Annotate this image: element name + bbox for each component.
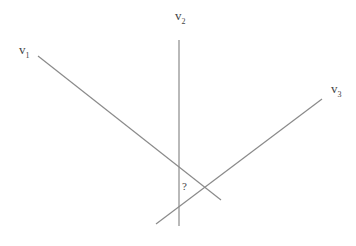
label-v2: v2 xyxy=(175,8,186,26)
line-v1 xyxy=(38,56,221,200)
line-v3 xyxy=(156,99,322,224)
label-unknown-angle: ? xyxy=(182,180,187,192)
label-v3: v3 xyxy=(331,81,342,99)
diagram-canvas: v1 v2 v3 ? xyxy=(0,0,356,246)
label-v1: v1 xyxy=(19,42,30,60)
